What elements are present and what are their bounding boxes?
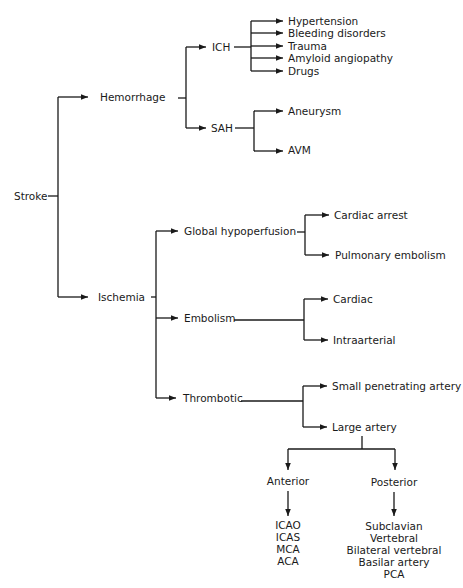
node-ischemia: Ischemia — [98, 291, 145, 303]
node-stroke: Stroke — [14, 190, 47, 202]
connector-anterior-posterior — [288, 491, 394, 516]
leaf-pulmonary-embolism: Pulmonary embolism — [335, 249, 446, 261]
anterior-vessel-list: ICAO ICAS MCA ACA — [275, 519, 301, 567]
posterior-vessel-list: Subclavian Vertebral Bilateral vertebral… — [347, 520, 442, 580]
connector-ich — [234, 21, 283, 71]
node-large-artery: Large artery — [332, 421, 397, 433]
leaf-drugs: Drugs — [288, 65, 319, 77]
node-sah: SAH — [211, 122, 233, 134]
leaf-pca: PCA — [384, 568, 406, 580]
leaf-bilateral-vertebral: Bilateral vertebral — [347, 544, 442, 556]
leaf-avm: AVM — [288, 144, 311, 156]
leaf-icas: ICAS — [276, 531, 301, 543]
node-anterior: Anterior — [267, 475, 310, 487]
connector-ischemia — [151, 231, 178, 398]
node-global-hypoperfusion: Global hypoperfusion — [184, 225, 296, 237]
leaf-intraarterial: Intraarterial — [333, 334, 396, 346]
connector-global-hypoperfusion — [297, 215, 329, 255]
node-hemorrhage: Hemorrhage — [100, 91, 166, 103]
leaf-hypertension: Hypertension — [288, 15, 358, 27]
leaf-amyloid-angiopathy: Amyloid angiopathy — [288, 52, 393, 64]
leaf-icao: ICAO — [275, 519, 301, 531]
leaf-cardiac: Cardiac — [333, 293, 373, 305]
leaf-mca: MCA — [276, 543, 300, 555]
connector-stroke — [48, 97, 88, 297]
connector-embolism — [234, 299, 328, 340]
leaf-bleeding-disorders: Bleeding disorders — [288, 27, 386, 39]
connector-hemorrhage — [178, 47, 206, 128]
node-embolism: Embolism — [184, 312, 236, 324]
node-ich: ICH — [212, 41, 230, 53]
leaf-aca: ACA — [277, 555, 299, 567]
leaf-cardiac-arrest: Cardiac arrest — [334, 209, 408, 221]
leaf-vertebral: Vertebral — [370, 532, 418, 544]
node-thrombotic: Thrombotic — [182, 392, 243, 404]
stroke-classification-diagram: Stroke Hemorrhage ICH Hypertension Bleed… — [0, 0, 463, 588]
leaf-small-penetrating-artery: Small penetrating artery — [332, 380, 461, 392]
leaf-basilar-artery: Basilar artery — [359, 556, 430, 568]
connector-thrombotic — [241, 386, 327, 427]
connector-sah — [235, 111, 283, 151]
connector-large-artery — [288, 436, 395, 470]
leaf-trauma: Trauma — [287, 40, 327, 52]
leaf-aneurysm: Aneurysm — [288, 105, 341, 117]
leaf-subclavian: Subclavian — [365, 520, 422, 532]
node-posterior: Posterior — [371, 476, 418, 488]
